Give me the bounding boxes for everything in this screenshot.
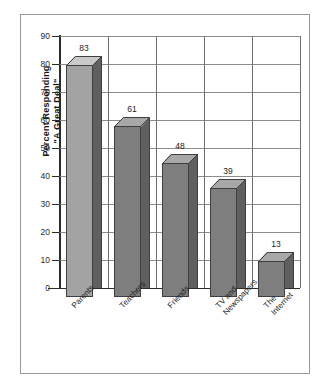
bar-value-label: 61 xyxy=(112,105,152,114)
gridline-vertical xyxy=(204,36,205,288)
bar-value-label: 13 xyxy=(256,240,296,249)
y-tick-mark xyxy=(52,92,60,93)
bar-front-face xyxy=(66,65,93,297)
gridline-vertical xyxy=(300,36,301,288)
bar-front-face xyxy=(210,188,237,297)
bar-value-label: 39 xyxy=(208,167,248,176)
gridline-vertical xyxy=(156,36,157,288)
bar-1 xyxy=(66,56,102,297)
bar-3 xyxy=(162,154,198,297)
bar-front-face xyxy=(162,163,189,297)
gridline-horizontal xyxy=(60,36,300,37)
y-tick-mark xyxy=(52,120,60,121)
y-tick-label: 90 xyxy=(24,32,50,41)
bar-value-label: 83 xyxy=(64,44,104,53)
bar-value-label: 48 xyxy=(160,142,200,151)
y-tick-mark xyxy=(52,288,60,289)
gridline-vertical xyxy=(108,36,109,288)
y-tick-mark xyxy=(52,260,60,261)
bar-side-face xyxy=(93,56,102,288)
y-tick-label: 10 xyxy=(24,256,50,265)
y-tick-mark xyxy=(52,232,60,233)
y-tick-label: 80 xyxy=(24,60,50,69)
y-tick-label: 50 xyxy=(24,144,50,153)
y-tick-label: 20 xyxy=(24,228,50,237)
y-tick-label: 0 xyxy=(24,284,50,293)
y-tick-mark xyxy=(52,204,60,205)
bar-2 xyxy=(114,117,150,297)
bar-side-face xyxy=(189,154,198,288)
y-tick-mark xyxy=(52,64,60,65)
y-tick-label: 70 xyxy=(24,88,50,97)
y-tick-mark xyxy=(52,36,60,37)
y-tick-mark xyxy=(52,176,60,177)
y-tick-label: 60 xyxy=(24,116,50,125)
gridline-vertical xyxy=(252,36,253,288)
y-tick-label: 30 xyxy=(24,200,50,209)
bar-front-face xyxy=(114,126,141,297)
y-tick-label: 40 xyxy=(24,172,50,181)
y-tick-mark xyxy=(52,148,60,149)
bar-side-face xyxy=(141,117,150,288)
chart-root: Percent Responding"A Great Deal" 9080706… xyxy=(0,0,329,387)
